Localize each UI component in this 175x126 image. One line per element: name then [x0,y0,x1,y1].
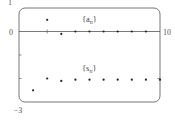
data-point [88,79,90,81]
data-point [145,30,147,32]
x-label-right: 10 [163,28,171,37]
data-point [159,79,161,81]
data-point [46,77,48,79]
data-point [74,79,76,81]
y-label-bottom: −3 [14,106,23,115]
data-point [60,80,62,82]
data-point [117,30,119,32]
series-s-points [32,77,161,91]
data-point [131,79,133,81]
sequence-chart: 1 0 −3 10 {an} {sn} [0,0,175,126]
y-label-top: 1 [8,0,12,7]
data-point [145,79,147,81]
data-point [103,30,105,32]
data-point [74,30,76,32]
series-label-a: {an} [82,14,97,25]
y-label-zero: 0 [9,28,13,37]
series-label-s: {sn} [82,63,96,74]
data-point [88,30,90,32]
data-point [32,89,34,91]
data-point [60,33,62,35]
data-point [131,30,133,32]
data-point [103,79,105,81]
data-point [117,79,119,81]
data-point [46,19,48,21]
